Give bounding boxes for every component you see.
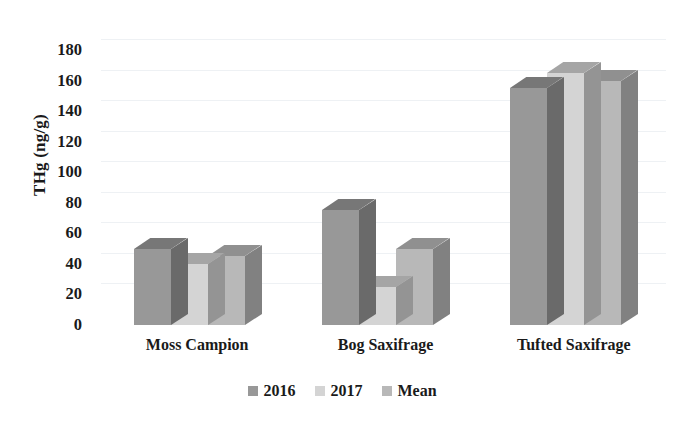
y-tick-label: 120 [22, 133, 82, 150]
bar-front-face [510, 88, 547, 325]
chart-legend: 20162017Mean [0, 383, 685, 399]
legend-swatch-icon [248, 386, 258, 396]
legend-label: 2016 [263, 383, 295, 399]
y-tick-label: 60 [22, 225, 82, 242]
y-tick-label: 160 [22, 72, 82, 89]
y-tick-label: 0 [22, 317, 82, 334]
bar-side-face [433, 238, 450, 325]
x-axis-category-label: Bog Saxifrage [338, 336, 434, 354]
x-axis-category-labels: Moss CampionBog SaxifrageTufted Saxifrag… [101, 336, 666, 362]
x-axis-category-label: Tufted Saxifrage [517, 336, 631, 354]
y-axis-tick-labels: 180160140120100806040200 [22, 0, 82, 426]
bar-front-face [134, 249, 171, 325]
bar-side-face [547, 77, 564, 325]
bar-chart: THg (ng/g) 180160140120100806040200 Moss… [0, 0, 685, 426]
bar [322, 210, 359, 325]
legend-item[interactable]: 2016 [248, 383, 295, 399]
bar-side-face [359, 199, 376, 325]
bar-side-face [171, 238, 188, 325]
y-tick-label: 80 [22, 195, 82, 212]
y-tick-label: 100 [22, 164, 82, 181]
legend-swatch-icon [315, 386, 325, 396]
plot-area [101, 25, 666, 327]
y-tick-label: 20 [22, 286, 82, 303]
bar-side-face [584, 62, 601, 325]
bar-side-face [621, 70, 638, 325]
x-axis-category-label: Moss Campion [146, 336, 249, 354]
gridline [101, 39, 666, 40]
y-tick-label: 140 [22, 103, 82, 120]
legend-label: 2017 [330, 383, 362, 399]
y-tick-label: 180 [22, 42, 82, 59]
y-tick-label: 40 [22, 256, 82, 273]
legend-item[interactable]: Mean [382, 383, 436, 399]
bar [510, 88, 547, 325]
bar-front-face [322, 210, 359, 325]
legend-label: Mean [397, 383, 436, 399]
legend-swatch-icon [382, 386, 392, 396]
bar-side-face [208, 253, 225, 325]
legend-item[interactable]: 2017 [315, 383, 362, 399]
bar-side-face [245, 245, 262, 325]
bar [134, 249, 171, 325]
